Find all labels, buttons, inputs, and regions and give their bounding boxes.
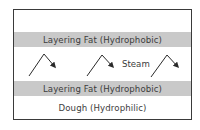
layering-fat-bottom-label: Layering Fat (Hydrophobic) <box>43 84 162 94</box>
steam-label: Steam <box>122 59 150 69</box>
dough-band: Dough (Hydrophilic) <box>14 96 191 119</box>
steam-gap: Steam <box>14 47 191 81</box>
layering-fat-bottom-band: Layering Fat (Hydrophobic) <box>14 81 191 96</box>
layering-fat-top-band: Layering Fat (Hydrophobic) <box>14 32 191 47</box>
layering-fat-top-label: Layering Fat (Hydrophobic) <box>43 35 162 45</box>
dough-label: Dough (Hydrophilic) <box>59 103 147 113</box>
diagram-frame: Layering Fat (Hydrophobic) Steam Layerin… <box>13 9 192 120</box>
